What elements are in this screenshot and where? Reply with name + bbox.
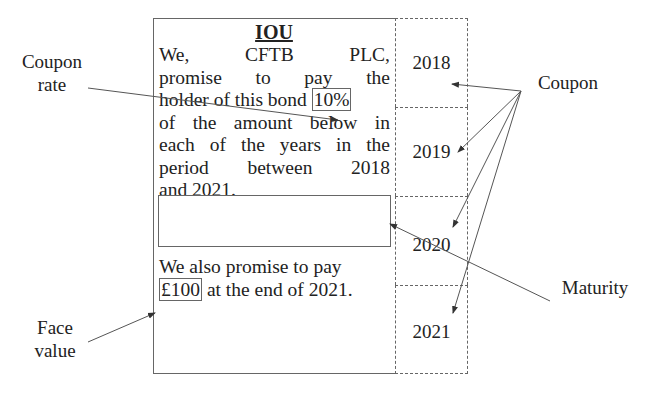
coupon-arrow-2020 [453,91,521,227]
maturity-arrow [390,224,550,301]
face-value-arrow [88,313,155,342]
coupon-rate-arrow [88,88,338,120]
arrows-layer [0,0,662,397]
coupon-arrow-2018 [452,84,521,91]
